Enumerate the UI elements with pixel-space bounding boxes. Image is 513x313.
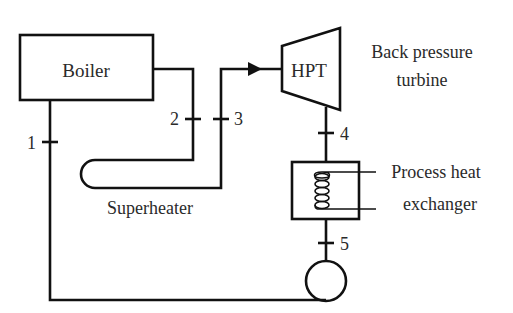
- cogeneration-cycle-diagram: Boiler 2 3 Superheater HPT Back pressure…: [0, 0, 513, 313]
- pump-icon: [306, 261, 346, 301]
- state-2-label: 2: [170, 109, 179, 129]
- flow-arrow-icon: [248, 62, 262, 76]
- turbine: HPT Back pressure turbine: [282, 28, 473, 110]
- state-5-label: 5: [340, 234, 349, 254]
- state-1-label: 1: [27, 133, 36, 153]
- state-4-label: 4: [340, 124, 349, 144]
- heat-exchanger-label-line-1: Process heat: [391, 162, 480, 182]
- heat-exchanger-label-line-2: exchanger: [403, 194, 477, 214]
- process-heat-exchanger: Process heat exchanger: [292, 162, 481, 219]
- superheater-pipe: [81, 69, 282, 188]
- boiler: Boiler: [20, 35, 153, 100]
- turbine-description-line-1: Back pressure: [371, 42, 472, 62]
- turbine-label: HPT: [291, 60, 327, 81]
- heat-exchanger-box: [292, 162, 359, 219]
- superheater-label: Superheater: [107, 198, 193, 218]
- boiler-label: Boiler: [62, 60, 110, 81]
- turbine-description-line-2: turbine: [397, 70, 448, 90]
- coil-icon: [315, 172, 377, 209]
- state-3-label: 3: [234, 109, 243, 129]
